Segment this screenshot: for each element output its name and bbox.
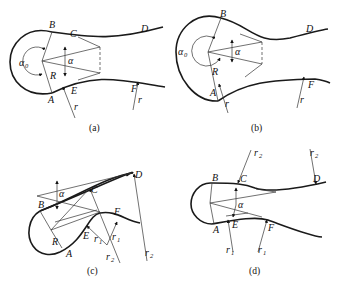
radius-B-d	[210, 183, 212, 203]
label-F: F	[307, 79, 315, 90]
radius-B-c	[40, 211, 51, 230]
label-r2-D: r	[310, 147, 314, 158]
label-r2-D: r	[145, 247, 149, 258]
label-R: R	[211, 66, 218, 77]
panel-b: B D A F R α α 0 r r (b)	[176, 8, 330, 134]
label-B: B	[212, 172, 218, 183]
caption-b: (b)	[251, 123, 262, 134]
label-r2-C-sub: 2	[259, 152, 263, 159]
label-C: C	[240, 173, 247, 184]
label-A: A	[47, 94, 55, 105]
label-r-E: r	[74, 101, 78, 112]
label-alpha: α	[68, 55, 74, 66]
label-r1-E: r	[226, 244, 230, 255]
label-E: E	[70, 85, 77, 96]
round-head-c	[29, 211, 60, 254]
label-C: C	[91, 184, 98, 195]
profile-lower-a	[52, 79, 165, 93]
label-F: F	[267, 222, 275, 233]
label-B: B	[38, 199, 44, 210]
label-r-A: r	[225, 98, 229, 109]
label-A: A	[209, 87, 217, 98]
tangent-lower-d	[226, 213, 248, 216]
round-head-d	[191, 183, 212, 224]
label-alpha: α	[235, 46, 241, 57]
radius-B-b	[208, 18, 221, 52]
label-r1-E: r	[94, 233, 98, 244]
panel-c: B C D A E F R α r 1 r 1 r 2 r 2 (c)	[29, 169, 154, 277]
label-alpha0-sub: 0	[25, 62, 29, 69]
label-E: E	[82, 230, 89, 241]
label-r2-D-sub: 2	[150, 252, 154, 259]
label-alpha0-sub: 0	[184, 51, 188, 58]
alpha-arrow-down-d	[233, 205, 236, 217]
alpha0-arc-b	[192, 36, 220, 66]
label-r2-C: r	[254, 147, 258, 158]
label-D: D	[134, 169, 143, 180]
panel-d: B C D A E F α r 2 r 2 r 1 r 1 (d)	[191, 147, 326, 277]
caption-c: (c)	[87, 266, 98, 277]
label-r1-F: r	[258, 244, 262, 255]
label-r2-C: r	[106, 251, 110, 262]
profile-upper-d	[212, 182, 326, 190]
label-r1-F-sub: 1	[263, 249, 266, 256]
label-r2-D-sub: 2	[315, 152, 319, 159]
label-r2-C-sub: 2	[111, 256, 115, 263]
radius-A-d	[210, 203, 214, 224]
caption-d: (d)	[249, 266, 260, 277]
label-alpha: α	[238, 199, 244, 210]
label-r1-E-sub: 1	[99, 238, 102, 245]
radius-B-a	[42, 32, 52, 61]
label-R: R	[49, 70, 56, 81]
label-r-F: r	[138, 94, 142, 105]
label-A: A	[65, 248, 73, 259]
label-B: B	[49, 19, 55, 30]
tangent-lower-a	[78, 73, 100, 80]
label-r1-F: r	[112, 231, 116, 242]
label-r-F: r	[300, 94, 304, 105]
tangent-upper-a	[78, 37, 100, 47]
figure: B C D A E F R α α 0 r r (a) B D A F R α	[0, 0, 340, 287]
label-B: B	[220, 8, 226, 19]
label-A: A	[212, 224, 220, 235]
label-D: D	[140, 23, 149, 34]
label-E: E	[231, 219, 238, 230]
label-F: F	[130, 83, 138, 94]
label-r1-E-sub: 1	[231, 249, 234, 256]
round-head-a	[10, 31, 52, 94]
label-D: D	[305, 23, 314, 34]
label-D: D	[312, 173, 321, 184]
label-alpha: α	[59, 188, 65, 199]
caption-a: (a)	[89, 123, 100, 134]
panel-a: B C D A E F R α α 0 r r (a)	[10, 19, 165, 134]
label-r1-F-sub: 1	[117, 236, 120, 243]
tangent-lower-b	[245, 64, 262, 77]
label-R: R	[51, 236, 58, 247]
alpha0-arc-a	[23, 47, 42, 75]
label-C: C	[70, 28, 77, 39]
label-F: F	[113, 206, 121, 217]
profile-lower-c	[60, 212, 140, 252]
